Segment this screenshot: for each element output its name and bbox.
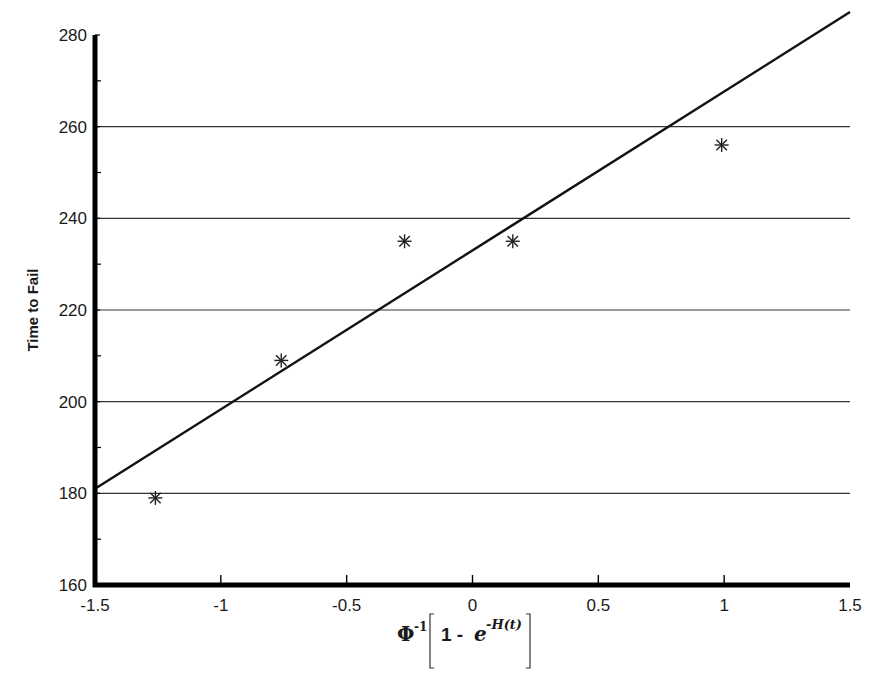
y-tick-label: 280 <box>59 26 87 45</box>
x-axis-title: Φ -1 1 - e -H(t) <box>397 614 530 668</box>
y-tick-label: 180 <box>59 484 87 503</box>
y-tick-label: 160 <box>59 576 87 595</box>
axes <box>93 35 850 587</box>
asterisk-marker-icon <box>148 491 162 505</box>
data-points <box>148 138 728 505</box>
fit-line <box>95 12 850 489</box>
x-axis-title-one-minus: 1 - <box>441 624 463 645</box>
x-tick-label: -0.5 <box>332 596 361 615</box>
x-axis-title-exp: -H(t) <box>486 617 522 632</box>
asterisk-marker-icon <box>506 234 520 248</box>
asterisk-marker-icon <box>715 138 729 152</box>
x-tick-label: 1.5 <box>838 596 862 615</box>
grid-lines <box>95 127 850 494</box>
left-bracket <box>430 614 434 668</box>
x-axis-title-phi: Φ <box>397 622 414 646</box>
regression-line <box>95 12 850 489</box>
x-tick-label: 0 <box>468 596 477 615</box>
y-axis-title: Time to Fail <box>24 268 41 351</box>
y-tick-label: 220 <box>59 301 87 320</box>
x-axis-title-sup: -1 <box>414 620 427 634</box>
x-tick-label: -1.5 <box>80 596 109 615</box>
x-axis-ticks: -1.5-1-0.500.511.5 <box>80 575 861 615</box>
y-tick-label: 260 <box>59 118 87 137</box>
asterisk-marker-icon <box>398 234 412 248</box>
x-axis-title-e: e <box>474 622 487 646</box>
y-tick-label: 200 <box>59 393 87 412</box>
chart: 160180200220240260280 -1.5-1-0.500.511.5… <box>0 0 885 694</box>
y-tick-label: 240 <box>59 209 87 228</box>
x-tick-label: -1 <box>213 596 228 615</box>
asterisk-marker-icon <box>274 353 288 367</box>
x-tick-label: 1 <box>719 596 728 615</box>
x-tick-label: 0.5 <box>587 596 611 615</box>
right-bracket <box>526 614 530 668</box>
